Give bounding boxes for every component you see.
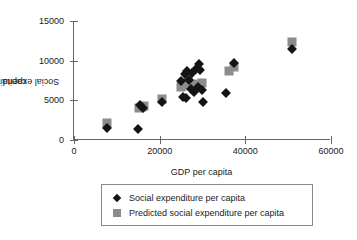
x-axis-title: GDP per capita	[73, 167, 330, 177]
plot-area: 050001000015000 0200004000060000	[73, 21, 330, 140]
y-axis-title-line-2: capita	[2, 75, 26, 86]
actual-data-point	[221, 88, 231, 98]
diamond-marker-icon	[110, 195, 124, 201]
y-tick-label: 15000	[39, 16, 70, 26]
y-tick-label: 5000	[44, 95, 70, 105]
actual-data-point	[195, 65, 205, 75]
square-marker-icon	[110, 209, 124, 217]
actual-data-point	[133, 124, 143, 134]
y-axis-title: Social expenditure per capita	[6, 21, 22, 140]
x-tick-label: 0	[71, 146, 76, 156]
legend-item-actual-label: Social expenditure per capita	[124, 193, 245, 203]
y-tick	[70, 100, 78, 101]
legend-item-actual[interactable]: Social expenditure per capita	[110, 190, 306, 205]
x-tick	[74, 136, 75, 144]
y-tick	[70, 21, 78, 22]
chart-legend: Social expenditure per capita Predicted …	[101, 184, 313, 226]
x-tick-label: 40000	[233, 146, 258, 156]
x-tick-label: 60000	[318, 146, 343, 156]
legend-item-predicted[interactable]: Predicted social expenditure per capita	[110, 205, 306, 220]
y-tick	[70, 61, 78, 62]
x-tick	[331, 136, 332, 144]
legend-item-predicted-label: Predicted social expenditure per capita	[124, 208, 284, 218]
y-tick-label: 10000	[39, 56, 70, 66]
x-tick-label: 20000	[147, 146, 172, 156]
scatter-chart-figure: Social expenditure per capita 0500010000…	[0, 0, 357, 240]
x-tick	[160, 136, 161, 144]
actual-data-point	[198, 97, 208, 107]
y-tick-label: 0	[59, 135, 70, 145]
x-tick	[245, 136, 246, 144]
